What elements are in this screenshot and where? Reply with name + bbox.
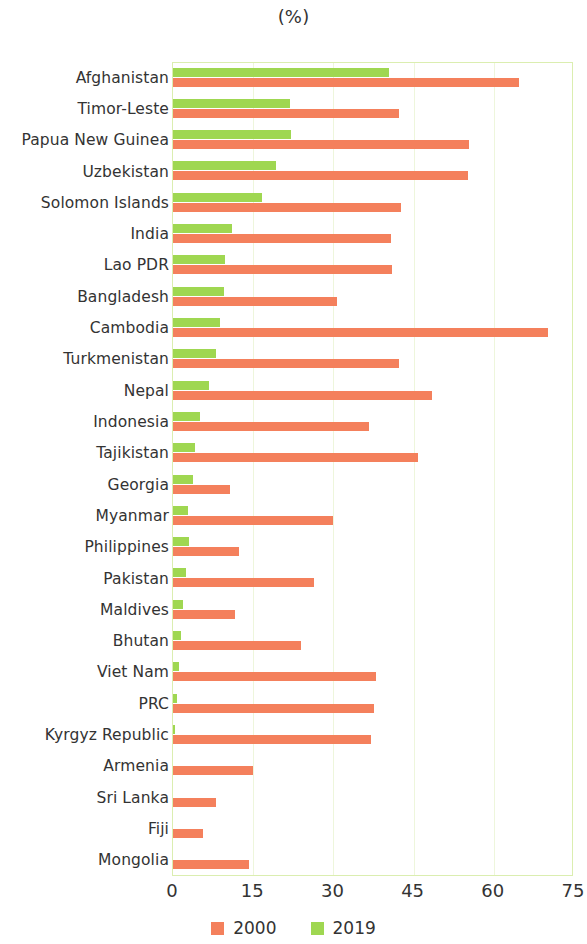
bar-2019[interactable] (173, 224, 232, 233)
bar-2000[interactable] (173, 672, 376, 681)
bar-2019[interactable] (173, 725, 175, 734)
bar-row: Papua New Guinea (0, 125, 587, 156)
bar-2019[interactable] (173, 68, 389, 77)
bar-2000[interactable] (173, 78, 519, 87)
bar-2019[interactable] (173, 412, 200, 421)
bar-2019[interactable] (173, 662, 179, 671)
bar-group (173, 782, 573, 813)
category-label: Solomon Islands (41, 194, 169, 212)
x-axis-tick-label: 0 (166, 880, 177, 901)
bar-2019[interactable] (173, 537, 189, 546)
legend-item-2000[interactable]: 2000 (211, 918, 276, 938)
bar-2000[interactable] (173, 829, 203, 838)
legend-item-2019[interactable]: 2019 (311, 918, 376, 938)
category-label: Philippines (84, 538, 169, 556)
x-axis: 01530456075 (0, 880, 587, 910)
bar-row: PRC (0, 688, 587, 719)
bar-2000[interactable] (173, 328, 548, 337)
bar-2019[interactable] (173, 99, 290, 108)
bar-2019[interactable] (173, 193, 262, 202)
bar-group (173, 813, 573, 844)
category-label: Bhutan (113, 632, 169, 650)
bar-row: Sri Lanka (0, 782, 587, 813)
bar-row: Turkmenistan (0, 344, 587, 375)
bar-2000[interactable] (173, 798, 216, 807)
bar-2000[interactable] (173, 860, 249, 869)
bar-row: Tajikistan (0, 438, 587, 469)
bar-2019[interactable] (173, 600, 183, 609)
category-label: Bangladesh (77, 288, 169, 306)
bar-group (173, 281, 573, 312)
bar-row: Nepal (0, 375, 587, 406)
bar-chart: AfghanistanTimor-LestePapua New GuineaUz… (0, 0, 587, 944)
bar-2000[interactable] (173, 641, 301, 650)
bar-2000[interactable] (173, 453, 418, 462)
bar-2019[interactable] (173, 161, 276, 170)
chart-legend: 2000 2019 (0, 918, 587, 938)
bar-2000[interactable] (173, 203, 401, 212)
category-label: Tajikistan (96, 444, 169, 462)
bar-2019[interactable] (173, 694, 177, 703)
bar-2000[interactable] (173, 704, 374, 713)
category-label: PRC (139, 695, 169, 713)
category-label: Fiji (148, 820, 169, 838)
bar-row: Lao PDR (0, 250, 587, 281)
bar-group (173, 250, 573, 281)
bar-2000[interactable] (173, 735, 371, 744)
legend-swatch-2019 (311, 922, 324, 935)
bar-group (173, 93, 573, 124)
bar-group (173, 626, 573, 657)
bar-2000[interactable] (173, 297, 337, 306)
bar-2000[interactable] (173, 485, 230, 494)
bar-2000[interactable] (173, 547, 239, 556)
category-label: Nepal (124, 382, 169, 400)
category-label: Mongolia (98, 851, 169, 869)
bar-2000[interactable] (173, 359, 399, 368)
bar-2000[interactable] (173, 422, 369, 431)
category-label: Georgia (108, 476, 169, 494)
bar-2019[interactable] (173, 443, 195, 452)
category-label: Myanmar (95, 507, 169, 525)
bar-2000[interactable] (173, 391, 432, 400)
bar-2019[interactable] (173, 631, 181, 640)
bar-group (173, 219, 573, 250)
category-label: Viet Nam (97, 663, 169, 681)
x-axis-tick-label: 60 (481, 880, 504, 901)
bar-group (173, 594, 573, 625)
bar-2019[interactable] (173, 381, 209, 390)
bar-2000[interactable] (173, 140, 469, 149)
bar-2019[interactable] (173, 506, 188, 515)
bar-row: Kyrgyz Republic (0, 719, 587, 750)
bar-row: Maldives (0, 594, 587, 625)
bar-2000[interactable] (173, 610, 235, 619)
bar-2000[interactable] (173, 578, 314, 587)
bar-group (173, 500, 573, 531)
bar-row: Uzbekistan (0, 156, 587, 187)
bar-group (173, 751, 573, 782)
bar-2000[interactable] (173, 516, 333, 525)
bar-group (173, 156, 573, 187)
bar-group (173, 62, 573, 93)
category-label: Lao PDR (104, 256, 169, 274)
bar-2019[interactable] (173, 318, 220, 327)
bar-2019[interactable] (173, 475, 193, 484)
x-axis-tick-label: 75 (562, 880, 585, 901)
category-label: Uzbekistan (82, 163, 169, 181)
bar-2000[interactable] (173, 109, 399, 118)
bar-rows-container: AfghanistanTimor-LestePapua New GuineaUz… (0, 62, 587, 876)
bar-2000[interactable] (173, 766, 253, 775)
bar-2000[interactable] (173, 171, 468, 180)
bar-row: Cambodia (0, 312, 587, 343)
bar-2019[interactable] (173, 287, 224, 296)
bar-row: Indonesia (0, 406, 587, 437)
x-axis-tick-label: 15 (241, 880, 264, 901)
bar-2019[interactable] (173, 349, 216, 358)
bar-2000[interactable] (173, 265, 392, 274)
bar-group (173, 344, 573, 375)
bar-2019[interactable] (173, 255, 225, 264)
bar-group (173, 657, 573, 688)
bar-2000[interactable] (173, 234, 391, 243)
bar-2019[interactable] (173, 568, 186, 577)
bar-2019[interactable] (173, 130, 291, 139)
legend-label-2019: 2019 (333, 918, 376, 938)
